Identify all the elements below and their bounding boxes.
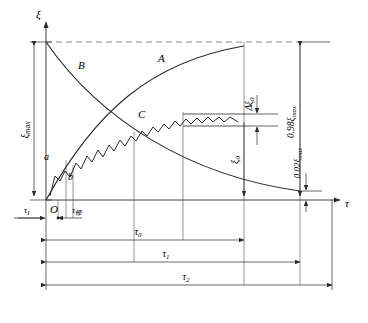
curve-A <box>46 46 244 200</box>
label-002-xi-max: 0.02ξmax <box>292 148 303 179</box>
label-tau-1: τ1 <box>162 248 169 261</box>
origin-label: O <box>50 203 58 215</box>
point-label-b: b <box>68 171 73 182</box>
curve-label-B: B <box>78 59 85 71</box>
label-delta-xi0: Δξ0 <box>244 97 256 112</box>
axis-label-tau: τ <box>345 197 350 209</box>
point-label-a: a <box>44 151 49 162</box>
axis-label-xi: ξ <box>36 8 41 21</box>
label-tau-2: τ2 <box>182 271 190 284</box>
label-xi-max: ξmax <box>19 121 32 139</box>
curve-label-C: C <box>138 108 146 120</box>
label-tau-0: τ0 <box>134 226 142 239</box>
curve-C-zigzag <box>50 117 238 196</box>
curve-label-A: A <box>157 52 165 64</box>
label-tau-xiu: τ修 <box>72 205 83 216</box>
label-tau-L: τІ <box>24 205 30 216</box>
figure-canvas: ξmax Δξ0 ξ0 0.02ξmax 0.98ξmax τІ τ修 <box>0 0 368 323</box>
label-xi0: ξ0 <box>229 156 242 164</box>
label-098-xi-max: 0.98ξmax <box>286 106 297 138</box>
technical-diagram-svg: ξmax Δξ0 ξ0 0.02ξmax 0.98ξmax τІ τ修 <box>0 0 368 323</box>
dim-dot-tauL <box>57 217 60 220</box>
